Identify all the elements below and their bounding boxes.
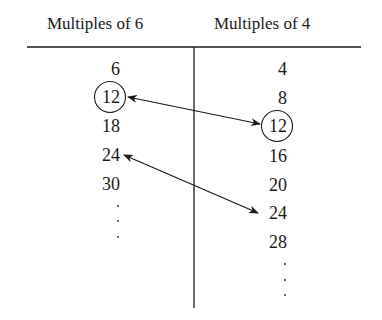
left-ellipsis-dot [117,220,119,222]
right-value-circled: 12 [247,116,287,136]
left-value-circled: 12 [80,87,120,107]
left-ellipsis-dot [117,205,119,207]
arrow-24-to-24 [124,155,258,213]
right-ellipsis-dot [284,263,286,265]
right-value: 20 [247,175,287,195]
left-value: 18 [80,116,120,136]
right-value: 8 [247,88,287,108]
right-value: 4 [247,59,287,79]
right-value: 28 [247,232,287,252]
left-ellipsis-dot [117,236,119,238]
right-value: 24 [247,203,287,223]
left-value: 30 [80,174,120,194]
right-value: 16 [247,146,287,166]
left-value: 6 [80,59,120,79]
right-ellipsis-dot [284,279,286,281]
t-chart-lines [0,0,382,320]
left-value: 24 [80,145,120,165]
right-ellipsis-dot [284,294,286,296]
